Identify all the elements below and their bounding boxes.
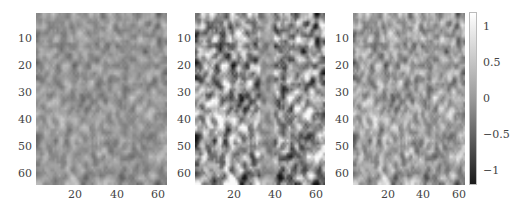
ytick: 10 (167, 32, 191, 45)
heatmap-panel-1 (36, 13, 167, 185)
heatmap-panel-3 (353, 13, 465, 185)
ytick: 30 (325, 86, 349, 99)
cbar-tick: 1 (483, 20, 490, 33)
xtick: 20 (376, 188, 400, 201)
ytick: 30 (167, 86, 191, 99)
xtick: 60 (447, 188, 471, 201)
ytick: 30 (8, 86, 32, 99)
ytick: 20 (167, 59, 191, 72)
xtick: 60 (304, 188, 328, 201)
ytick: 40 (167, 113, 191, 126)
heatmap-panel-2 (195, 13, 325, 185)
cbar-tick: −1 (483, 164, 499, 177)
ytick: 20 (325, 59, 349, 72)
ytick: 20 (8, 59, 32, 72)
ytick: 60 (167, 167, 191, 180)
cbar-tick: −0.5 (483, 128, 510, 141)
cbar-tick: 0.5 (483, 56, 501, 69)
xtick: 40 (105, 188, 129, 201)
ytick: 40 (325, 113, 349, 126)
ytick: 50 (325, 140, 349, 153)
ytick: 60 (8, 167, 32, 180)
xtick: 20 (222, 188, 246, 201)
ytick: 40 (8, 113, 32, 126)
xtick: 40 (263, 188, 287, 201)
xtick: 20 (63, 188, 87, 201)
ytick: 60 (325, 167, 349, 180)
colorbar (469, 12, 477, 185)
xtick: 40 (411, 188, 435, 201)
ytick: 10 (325, 32, 349, 45)
xtick: 60 (146, 188, 170, 201)
cbar-tick: 0 (483, 92, 490, 105)
ytick: 50 (167, 140, 191, 153)
ytick: 10 (8, 32, 32, 45)
ytick: 50 (8, 140, 32, 153)
